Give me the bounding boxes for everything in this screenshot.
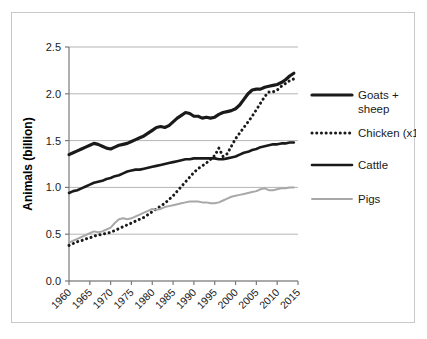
series-line-goats-sheep	[69, 73, 294, 154]
series-line-chicken-x10	[69, 79, 294, 246]
legend-label-chicken: Chicken (x10)	[358, 127, 416, 139]
x-tick-label: 1980	[132, 286, 157, 311]
axes	[69, 47, 298, 281]
y-tick-label: 0.0	[46, 275, 61, 287]
y-tick-label: 0.5	[46, 228, 61, 240]
y-tick-label: 2.0	[46, 88, 61, 100]
x-tick-label: 2005	[236, 286, 261, 311]
x-tick-label: 1985	[153, 286, 178, 311]
y-axis-title: Animals (billion)	[21, 117, 35, 210]
chart-figure: 0.00.51.01.52.02.5 196019651970197519801…	[11, 12, 415, 323]
y-tick-label: 1.5	[46, 135, 61, 147]
chart-legend: Goats +sheepChicken (x10)CattlePigs	[312, 89, 416, 205]
legend-label-goats-sheep: sheep	[358, 103, 389, 115]
gridlines	[69, 47, 298, 281]
x-tick-label: 1995	[194, 286, 219, 311]
x-tick-label: 1960	[48, 286, 73, 311]
x-tick-label: 1975	[111, 286, 136, 311]
x-tick-label: 1990	[173, 286, 198, 311]
x-tick-label: 1970	[90, 286, 115, 311]
line-chart: 0.00.51.01.52.02.5 196019651970197519801…	[12, 13, 416, 324]
x-axis-tick-labels: 1960196519701975198019851990199520002005…	[48, 286, 302, 311]
y-tick-label: 2.5	[46, 41, 61, 53]
legend-label-cattle: Cattle	[358, 159, 388, 171]
x-tick-label: 2015	[277, 286, 302, 311]
y-tick-label: 1.0	[46, 181, 61, 193]
x-tick-label: 2000	[215, 286, 240, 311]
y-axis-title-text: Animals (billion)	[21, 117, 35, 210]
series-line-cattle	[69, 142, 294, 193]
x-tick-label: 2010	[257, 286, 282, 311]
legend-label-pigs: Pigs	[358, 193, 381, 205]
x-tick-label: 1965	[69, 286, 94, 311]
legend-label-goats-sheep: Goats +	[358, 89, 399, 101]
data-series-group	[69, 73, 294, 245]
y-axis-tick-labels: 0.00.51.01.52.02.5	[46, 41, 69, 287]
